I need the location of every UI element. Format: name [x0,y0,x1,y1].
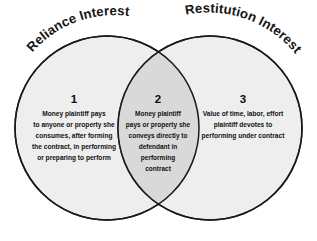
venn-diagram-container: Reliance Interest Restitution Interest 1… [0,0,317,241]
region-2-number: 2 [155,93,161,105]
region-2-line-1: Money plaintiff [135,110,182,118]
region-3-number: 3 [240,93,246,105]
region-1-line-2: to anyone or property she [33,121,115,129]
region-1-line-1: Money plaintiff pays [42,110,106,118]
region-3-line-2: plaintiff devotes to [214,121,273,129]
region-2-line-3: conveys directly to [129,132,188,140]
venn-diagram-svg: Reliance Interest Restitution Interest 1… [0,0,317,241]
region-2-line-5: performing [141,154,175,162]
region-1-line-4: the contract, in performing [32,143,116,151]
region-1-number: 1 [71,93,78,105]
region-3-line-3: performing under contract [202,132,286,140]
region-2-line-2: pays or property she [126,121,191,129]
region-1-line-5: or preparing to perform [37,154,111,162]
region-3-line-1: Value of time, labor, effort [203,110,284,118]
region-2-line-6: contract [145,165,171,172]
region-2-line-4: defendant in [139,143,178,150]
region-1-line-3: consumes, after forming [36,132,113,140]
